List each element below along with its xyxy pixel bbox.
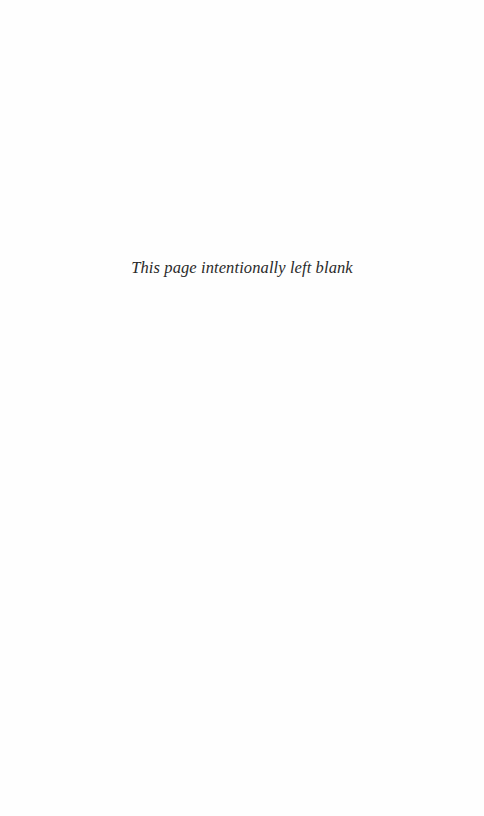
document-page: This page intentionally left blank xyxy=(0,0,484,816)
blank-page-notice: This page intentionally left blank xyxy=(0,258,484,278)
